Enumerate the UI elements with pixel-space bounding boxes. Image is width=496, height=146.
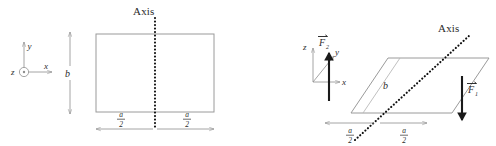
right-a2-fraction: a 2 xyxy=(183,110,191,129)
right-a2-denominator: 2 xyxy=(185,120,189,129)
force-f1-group: F 1 xyxy=(462,76,478,120)
right-frame-x-label: x xyxy=(341,77,346,87)
force-f1-subscript: 1 xyxy=(475,91,478,97)
left-b-label: b xyxy=(65,68,70,79)
z-out-of-page-dot-icon xyxy=(23,71,25,73)
right-right-a2-numerator: a xyxy=(402,126,406,135)
right-left-a2-numerator: a xyxy=(348,126,352,135)
force-f1-label: F 1 xyxy=(467,82,478,97)
right-b-label: b xyxy=(383,80,388,91)
left-frame-z-label: z xyxy=(10,67,15,77)
left-a2-denominator: 2 xyxy=(119,120,123,129)
right-coordinate-frame: z y x xyxy=(302,42,346,88)
left-axis-label: Axis xyxy=(133,5,155,17)
left-a2-numerator: a xyxy=(119,110,123,119)
left-a2-fraction: a 2 xyxy=(117,110,125,129)
right-axis-label: Axis xyxy=(438,22,460,34)
force-f1-symbol: F xyxy=(467,84,475,95)
right-frame-z-label: z xyxy=(302,42,307,52)
right-right-a2-fraction: a 2 xyxy=(400,126,408,145)
left-height-dimension: b xyxy=(65,32,70,114)
left-frame-x-label: x xyxy=(43,61,48,71)
force-f2-symbol: F xyxy=(318,37,326,48)
force-f2-label: F 2 xyxy=(318,35,329,50)
right-left-a2-fraction: a 2 xyxy=(346,126,354,145)
physics-figure: z y x b Axis a 2 xyxy=(0,0,496,146)
right-panel-perspective-view: z y x b Axis F 2 xyxy=(302,22,489,145)
right-left-a2-denominator: 2 xyxy=(348,136,352,145)
force-f2-subscript: 2 xyxy=(326,44,329,50)
figure-canvas: z y x b Axis a 2 xyxy=(0,0,496,146)
right-frame-y-label: y xyxy=(334,47,339,57)
right-a2-numerator: a xyxy=(185,110,189,119)
force-f2-group: F 2 xyxy=(318,35,329,101)
left-frame-y-label: y xyxy=(27,41,32,51)
left-coordinate-frame: z y x xyxy=(10,41,52,77)
right-width-dimensions: a 2 a 2 xyxy=(325,123,427,145)
right-rotation-axis-line xyxy=(355,35,470,140)
left-panel-front-view: z y x b Axis a 2 xyxy=(10,5,214,129)
y-axis-3d-arrow-icon xyxy=(313,56,334,82)
right-right-a2-denominator: 2 xyxy=(402,136,406,145)
